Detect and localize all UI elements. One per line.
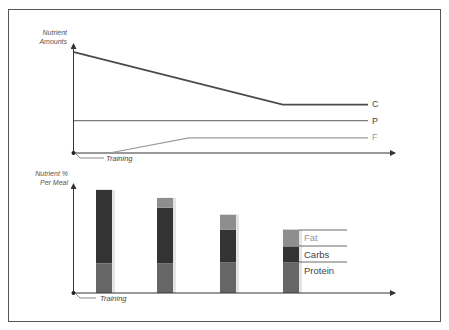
training-callout-line-bottom: [76, 294, 96, 298]
bar-segment-carbs: [96, 190, 112, 263]
origin-dot: [72, 151, 76, 155]
bar-segment-protein: [157, 263, 173, 293]
origin-dot-bottom: [72, 291, 76, 295]
training-callout-line: [76, 154, 104, 158]
bar-segment-fat: [283, 230, 299, 247]
bar-shadow: [299, 230, 302, 293]
bar-segment-protein: [96, 263, 112, 293]
bar-shadow: [112, 190, 115, 293]
bar-segment-fat: [157, 198, 173, 208]
chart-canvas: Nutrient Amounts Training C P F Nutrient…: [0, 0, 449, 330]
bars-group: [96, 190, 302, 293]
series-label-f: F: [372, 132, 378, 142]
top-y-axis-label-line1: Nutrient: [42, 29, 68, 36]
top-series-group: [74, 52, 368, 153]
bar-segment-protein: [220, 262, 236, 293]
top-y-axis-label-line2: Amounts: [38, 38, 67, 45]
bottom-y-axis-label-line1: Nutrient %: [35, 170, 68, 177]
bar-segment-protein: [283, 262, 299, 293]
top-line-chart: Nutrient Amounts Training C P F: [38, 29, 395, 163]
bar-segment-fat: [220, 215, 236, 230]
top-training-callout: Training: [106, 154, 133, 163]
bar-shadow: [173, 198, 176, 293]
bar-shadow: [236, 215, 239, 293]
bar-segment-carbs: [283, 246, 299, 262]
bar-segment-carbs: [220, 230, 236, 263]
bar-segment-carbs: [157, 208, 173, 263]
series-label-c: C: [372, 99, 379, 109]
series-line-c: [74, 52, 368, 105]
bottom-bar-chart: Nutrient % Per Meal Training Fat Carbs P…: [35, 170, 395, 303]
series-label-p: P: [372, 116, 378, 126]
legend-label-protein: Protein: [304, 265, 334, 276]
series-line-f: [109, 138, 368, 153]
bottom-y-axis-label-line2: Per Meal: [40, 179, 68, 186]
legend-label-carbs: Carbs: [304, 249, 330, 260]
legend-label-fat: Fat: [304, 232, 318, 243]
bottom-training-callout: Training: [100, 294, 127, 303]
